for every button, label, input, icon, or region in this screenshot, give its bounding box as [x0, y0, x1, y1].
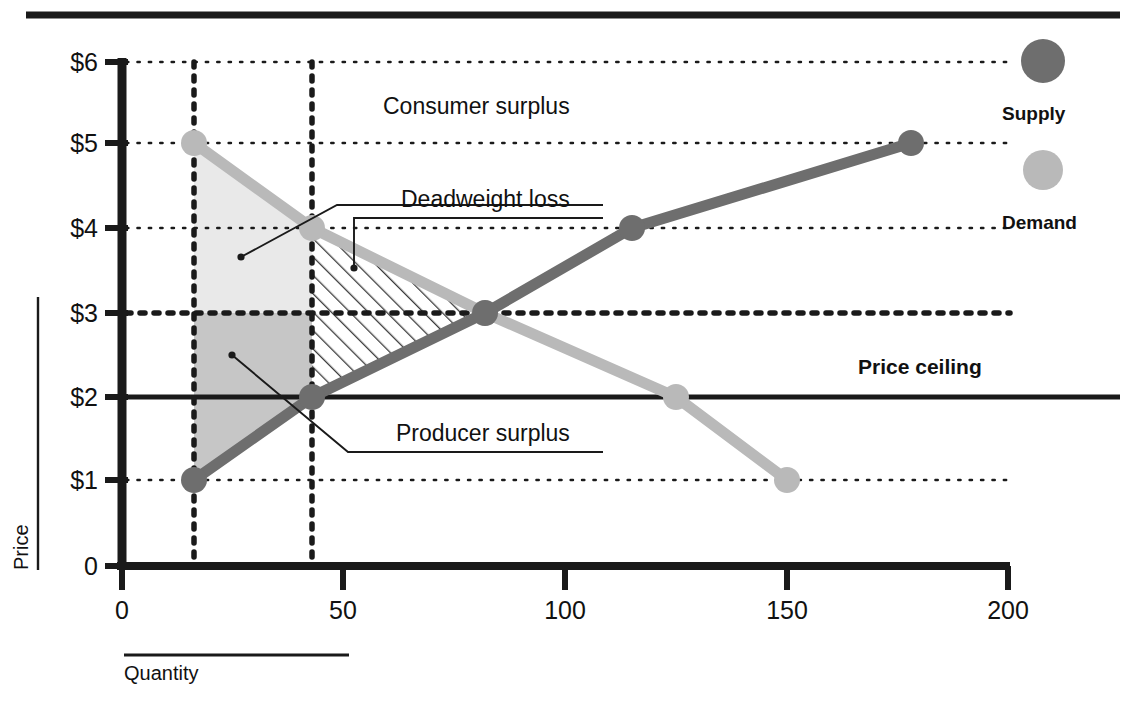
demand-point — [181, 130, 207, 156]
y-tick-label-1: $1 — [30, 466, 98, 495]
demand-point — [774, 467, 800, 493]
y-tick-label-4: $4 — [30, 214, 98, 243]
annotation-deadweight-loss: Deadweight loss — [401, 186, 570, 213]
x-tick-label-0: 0 — [94, 596, 150, 625]
supply-point — [898, 130, 924, 156]
x-tick-label-150: 150 — [759, 596, 815, 625]
y-tick-label-0: 0 — [30, 552, 98, 581]
y-axis-title: Price — [10, 524, 33, 570]
y-tick-label-2: $2 — [30, 383, 98, 412]
legend-marker-supply — [1021, 39, 1065, 83]
y-tick-label-6: $6 — [30, 48, 98, 77]
x-tick-label-200: 200 — [980, 596, 1036, 625]
y-tick-label-5: $5 — [30, 129, 98, 158]
supply-point — [181, 467, 207, 493]
demand-point — [663, 384, 689, 410]
supply-point — [472, 300, 498, 326]
supply-point — [299, 384, 325, 410]
legend-marker-demand — [1023, 150, 1063, 190]
price-ceiling-label: Price ceiling — [858, 355, 982, 379]
y-tick-label-3: $3 — [30, 299, 98, 328]
supply-point — [619, 215, 645, 241]
chart-canvas: $6 $5 $4 $3 $2 $1 0 0 50 100 150 200 Pri… — [0, 0, 1126, 703]
annotation-producer-surplus: Producer surplus — [396, 420, 570, 447]
annotation-consumer-surplus: Consumer surplus — [383, 93, 570, 120]
legend-label-supply: Supply — [1002, 103, 1065, 125]
legend-label-demand: Demand — [1002, 212, 1077, 234]
x-axis-title: Quantity — [124, 662, 198, 685]
x-tick-label-50: 50 — [315, 596, 371, 625]
x-tick-label-100: 100 — [537, 596, 593, 625]
